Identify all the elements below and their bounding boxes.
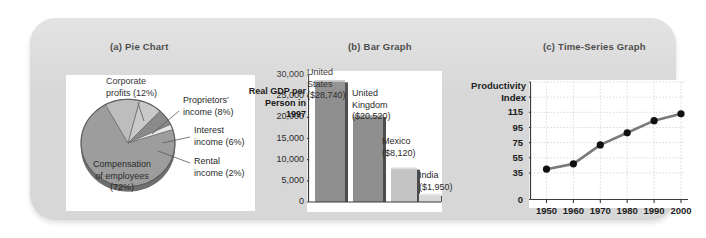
pie-label-line: Proprietors' [183, 95, 234, 107]
pie-label-line: Rental [194, 156, 245, 168]
time-series-line [547, 114, 682, 169]
bar-caption-line: India [419, 170, 453, 182]
bar-y-tick-label: 20,000 [246, 111, 304, 121]
bar-caption-line: ($28,740) [307, 90, 346, 102]
pie-label-line: profits (12%) [106, 88, 157, 100]
bar-y-tick-label: 0 [246, 196, 304, 206]
time-series-svg [529, 80, 689, 208]
ts-y-tick-label: 75 [493, 137, 523, 148]
pie-label-interest-income: Interest income (6%) [194, 125, 245, 148]
pie-label-line: income (6%) [194, 137, 245, 149]
bar-caption-line: Mexico [382, 136, 416, 148]
bar-caption-india: India ($1,950) [419, 170, 453, 193]
ts-axis-title-line: Index [462, 92, 526, 104]
bar-caption-line: ($20,520) [352, 111, 391, 123]
pie-label-line: Corporate [106, 76, 157, 88]
ts-y-tick-label: 95 [493, 122, 523, 133]
pie-label-proprietors-income: Proprietors' income (8%) [183, 95, 234, 118]
pie-label-rental-income: Rental income (2%) [194, 156, 245, 179]
bar-y-tick-label: 5,000 [246, 175, 304, 185]
bar-y-tick-label: 30,000 [246, 69, 304, 79]
pie-label-line: Interest [194, 125, 245, 137]
bar-caption-line: Kingdom [352, 100, 391, 112]
pie-chart-title: (a) Pie Chart [110, 41, 169, 52]
ts-y-tick-label: 35 [493, 167, 523, 178]
pie-label-corporate-profits: Corporate profits (12%) [106, 76, 157, 99]
bar-caption-line: ($1,950) [419, 182, 453, 194]
time-series-plot-area [529, 80, 689, 208]
pie-label-line: (72%) [74, 182, 170, 194]
bar-y-tick-label: 15,000 [246, 133, 304, 143]
pie-chart-plot-area: Corporate profits (12%) Proprietors' inc… [66, 75, 255, 211]
ts-y-tick-label: 115 [493, 106, 523, 117]
ts-y-tick-label: 0 [493, 194, 523, 205]
figure-panel: (a) Pie Chart (b) Bar Graph (c) Time-Ser… [30, 18, 676, 220]
bar-caption-united-states: United States ($28,740) [307, 67, 346, 102]
bar-graph-title: (b) Bar Graph [348, 41, 412, 52]
pie-label-line: income (8%) [183, 107, 234, 119]
ts-axis-title-line: Productivity [462, 80, 526, 92]
pie-label-line: income (2%) [194, 168, 245, 180]
bar-y-tick-label: 25,000 [246, 90, 304, 100]
bar-caption-line: United [307, 67, 346, 79]
bar-caption-united-kingdom: United Kingdom ($20,520) [352, 88, 391, 123]
time-series-graph-title: (c) Time-Series Graph [543, 41, 646, 52]
ts-y-tick-label: 55 [493, 152, 523, 163]
bar-caption-line: ($8,120) [382, 148, 416, 160]
pie-label-compensation-of-employees: Compensation of employees (72%) [74, 159, 170, 194]
bar-caption-line: United [352, 88, 391, 100]
bar-caption-line: States [307, 79, 346, 91]
bar-y-tick-label: 10,000 [246, 154, 304, 164]
bar-caption-mexico: Mexico ($8,120) [382, 136, 416, 159]
pie-label-line: Compensation [74, 159, 170, 171]
pie-label-line: of employees [74, 171, 170, 183]
time-series-axis-title: Productivity Index [462, 80, 526, 104]
